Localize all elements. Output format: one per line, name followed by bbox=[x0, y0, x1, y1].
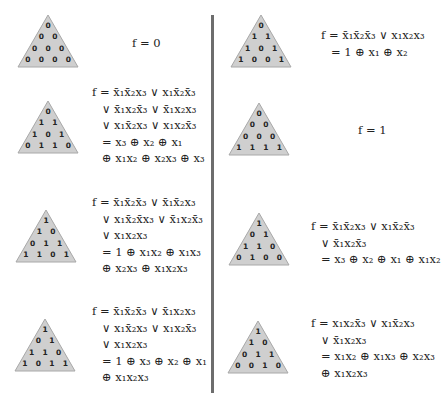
triangle-value: 1 bbox=[277, 143, 282, 152]
triangle-value: 0 bbox=[50, 227, 55, 236]
triangle-value: 1 bbox=[32, 130, 37, 139]
formula-line: = 1 ⊕ x₁ ⊕ x₂ bbox=[321, 44, 425, 61]
triangle-value: 1 bbox=[63, 359, 68, 368]
triangle-value: 0 bbox=[52, 55, 57, 64]
formula-line: ∨ x̄₁x₂x₃ bbox=[311, 332, 435, 349]
triangle-value: 1 bbox=[269, 350, 274, 359]
formula: f = x₁x₂x̄₃ ∨ x₁x̄₂x₃ ∨ x̄₁x₂x₃ = x₁x₂ ⊕… bbox=[311, 315, 435, 381]
triangle-diagram: 1100110010 bbox=[227, 320, 289, 374]
triangle-value: 0 bbox=[263, 253, 268, 262]
triangle-value: 0 bbox=[25, 55, 30, 64]
triangle-value: 0 bbox=[270, 132, 275, 141]
triangle-value: 0 bbox=[250, 230, 255, 239]
triangle-diagram: 0111011001 bbox=[230, 14, 292, 68]
triangle-value: 0 bbox=[45, 44, 50, 53]
formula-line: f = x̄₁x̄₂x̄₃ ∨ x̄₁x₂x₃ bbox=[92, 303, 207, 320]
triangle-value: 0 bbox=[66, 55, 71, 64]
triangle-value: 1 bbox=[265, 32, 270, 41]
formula-line: ∨ x̄₁x₂x̄₃ bbox=[311, 235, 441, 252]
triangle-value: 0 bbox=[262, 338, 267, 347]
formula-line: ∨ x₁x̄₂x̄x₃ ∨ x̄₁x₂x̄₃ bbox=[92, 211, 203, 228]
triangle-value: 1 bbox=[245, 44, 250, 53]
triangle-value: 0 bbox=[39, 55, 44, 64]
formula-line: f = x̄₁x̄₂x̄₃ ∨ x₁x₂x₃ bbox=[321, 27, 425, 44]
formula-line: f = x₁x₂x̄₃ ∨ x₁x̄₂x₃ bbox=[311, 315, 435, 332]
triangle-value: 0 bbox=[258, 21, 263, 30]
triangle-value: 1 bbox=[49, 359, 54, 368]
triangle-value: 1 bbox=[42, 348, 47, 357]
formula-line: = x₃ ⊕ x₂ ⊕ x₁ ⊕ x₁x₂ bbox=[311, 251, 441, 268]
triangle-value: 1 bbox=[250, 253, 255, 262]
triangle-value: 0 bbox=[252, 55, 257, 64]
formula-line: ∨ x̄₁x₂x̄₃ ∨ x̄₁x₂x₃ bbox=[92, 101, 205, 118]
triangle-value: 0 bbox=[45, 130, 50, 139]
triangle-shape: 0111010110 bbox=[17, 100, 79, 154]
triangle-shape: 1011101011 bbox=[14, 318, 76, 372]
formula: f = x̄₁x̄₂x₃ ∨ x₁x̄₂x̄₃ ∨ x̄₁x₂x̄₃ = x₃ … bbox=[311, 218, 441, 268]
triangle-diagram: 0000000000 bbox=[17, 14, 79, 68]
triangle-value: 1 bbox=[255, 350, 260, 359]
triangle-diagram: 0000001111 bbox=[228, 102, 290, 156]
formula-line: f = x̄₁x̄₂x₃ ∨ x₁x̄₂x̄₃ bbox=[311, 218, 441, 235]
triangle-value: 1 bbox=[238, 55, 243, 64]
formula: f = 0 bbox=[132, 35, 161, 52]
triangle-value: 1 bbox=[39, 118, 44, 127]
triangle-shape: 1100110010 bbox=[227, 320, 289, 374]
formula-line: f = x̄₁x̄₂x̄₃ ∨ x̄₁x̄₂x₃ bbox=[92, 194, 203, 211]
triangle-value: 1 bbox=[256, 219, 261, 228]
triangle-value: 1 bbox=[252, 32, 257, 41]
triangle-value: 1 bbox=[250, 143, 255, 152]
triangle-value: 0 bbox=[25, 141, 30, 150]
triangle-diagram: 0111010110 bbox=[17, 100, 79, 154]
triangle-value: 0 bbox=[32, 44, 37, 53]
formula-line: f = 0 bbox=[132, 35, 161, 52]
triangle-value: 1 bbox=[263, 230, 268, 239]
formula-line: = 1 ⊕ x₁x₂ ⊕ x₁x₃ bbox=[92, 244, 203, 261]
triangle-value: 0 bbox=[39, 32, 44, 41]
triangle-value: 1 bbox=[43, 216, 48, 225]
triangle-value: 1 bbox=[256, 242, 261, 251]
triangle-value: 0 bbox=[256, 132, 261, 141]
triangle-value: 1 bbox=[39, 141, 44, 150]
triangle-value: 1 bbox=[49, 336, 54, 345]
triangle-value: 0 bbox=[256, 109, 261, 118]
triangle-shape: 0000001111 bbox=[228, 102, 290, 156]
triangle-value: 1 bbox=[57, 239, 62, 248]
triangle-value: 1 bbox=[279, 55, 284, 64]
triangle-value: 1 bbox=[37, 250, 42, 259]
triangle-value: 0 bbox=[243, 132, 248, 141]
triangle-value: 1 bbox=[263, 143, 268, 152]
triangle-value: 0 bbox=[30, 239, 35, 248]
triangle-value: 0 bbox=[242, 350, 247, 359]
formula-line: = x₁x₂ ⊕ x₁x₃ ⊕ x₂x₃ bbox=[311, 348, 435, 365]
triangle-value: 1 bbox=[42, 325, 47, 334]
triangle-value: 0 bbox=[265, 55, 270, 64]
formula-line: ⊕ x₂x₃ ⊕ x₁x₂x₃ bbox=[92, 260, 203, 277]
triangle-value: 0 bbox=[250, 120, 255, 129]
formula: f = x̄₁x̄₂x̄₃ ∨ x̄₁x₂x₃ ∨ x₁x̄₂x₃ ∨ x₁x₂… bbox=[92, 303, 207, 386]
triangle-value: 0 bbox=[276, 361, 281, 370]
triangle-value: 1 bbox=[243, 242, 248, 251]
triangle-value: 0 bbox=[36, 336, 41, 345]
triangle-value: 1 bbox=[23, 250, 28, 259]
triangle-value: 0 bbox=[45, 21, 50, 30]
triangle-value: 1 bbox=[29, 348, 34, 357]
triangle-shape: 0111011001 bbox=[230, 14, 292, 68]
triangle-value: 1 bbox=[52, 141, 57, 150]
formula: f = x̄₁x̄₂x̄₃ ∨ x₁x₂x₃ = 1 ⊕ x₁ ⊕ x₂ bbox=[321, 27, 425, 60]
formula: f = x̄₁x̄₂x₃ ∨ x₁x̄₂x̄₃ ∨ x̄₁x₂x̄₃ ∨ x̄₁… bbox=[92, 84, 205, 167]
column-separator bbox=[211, 15, 214, 393]
formula-line: ∨ x₁x₂x₃ bbox=[92, 336, 207, 353]
formula-line: = 1 ⊕ x₃ ⊕ x₂ ⊕ x₁ bbox=[92, 353, 207, 370]
triangle-value: 0 bbox=[56, 348, 61, 357]
triangle-value: 1 bbox=[272, 44, 277, 53]
triangle-shape: 1100111101 bbox=[15, 209, 77, 263]
formula-line: ⊕ x₁x₂x₃ bbox=[92, 369, 207, 386]
triangle-value: 0 bbox=[270, 242, 275, 251]
triangle-value: 1 bbox=[236, 143, 241, 152]
formula-line: ⊕ x₁x₂ ⊕ x₂x₃ ⊕ x₃ bbox=[92, 150, 205, 167]
triangle-diagram: 1100111101 bbox=[15, 209, 77, 263]
triangle-value: 1 bbox=[43, 239, 48, 248]
triangle-value: 1 bbox=[37, 227, 42, 236]
triangle-shape: 0000000000 bbox=[17, 14, 79, 68]
